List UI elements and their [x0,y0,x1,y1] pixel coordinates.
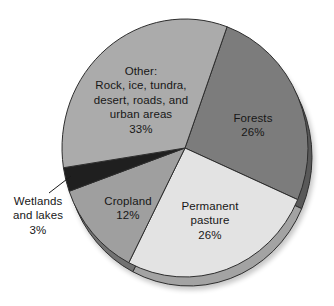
pie-chart [0,0,334,306]
pie-slices [62,19,308,277]
pie-chart-figure: Forests 26%Permanent pasture 26%Cropland… [0,0,334,306]
